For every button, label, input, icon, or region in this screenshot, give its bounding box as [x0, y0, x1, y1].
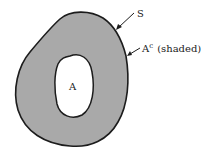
label-s: S: [137, 8, 144, 19]
label-a: A: [68, 81, 77, 92]
arrow-s-icon: [116, 13, 134, 30]
venn-complement-diagram: S Ac(shaded) A: [0, 0, 219, 160]
label-complement: Ac(shaded): [141, 42, 201, 54]
arrow-complement-icon: [127, 48, 140, 56]
